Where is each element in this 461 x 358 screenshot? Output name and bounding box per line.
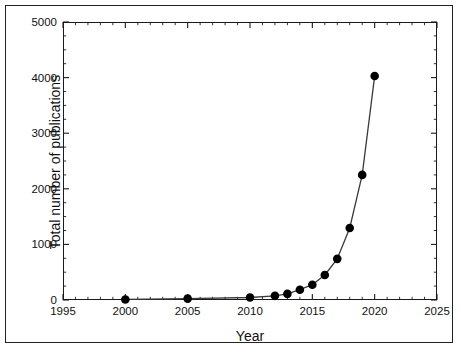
x-tick-label: 2025 (413, 305, 461, 317)
data-point (308, 280, 317, 289)
x-tick-label: 2015 (288, 305, 336, 317)
data-point (358, 171, 367, 180)
data-point (183, 294, 192, 303)
x-axis-label: Year (63, 328, 437, 344)
data-point (121, 295, 130, 304)
data-point (333, 255, 342, 264)
x-tick-label: 1995 (39, 305, 87, 317)
x-tick-label: 2000 (101, 305, 149, 317)
data-point (246, 293, 255, 302)
data-point (271, 292, 280, 301)
x-tick-label: 2005 (164, 305, 212, 317)
data-point (345, 224, 354, 233)
data-point (370, 72, 379, 81)
data-series-line (125, 76, 374, 300)
y-axis-label: Total number of publications (47, 23, 63, 301)
data-point-markers (121, 72, 379, 304)
x-tick-label: 2010 (226, 305, 274, 317)
figure-container: 010002000300040005000 199520002005201020… (0, 0, 461, 358)
data-point (321, 271, 330, 280)
data-point (296, 285, 305, 294)
x-tick-label: 2020 (351, 305, 399, 317)
axis-ticks (63, 22, 437, 300)
data-point (283, 290, 292, 299)
